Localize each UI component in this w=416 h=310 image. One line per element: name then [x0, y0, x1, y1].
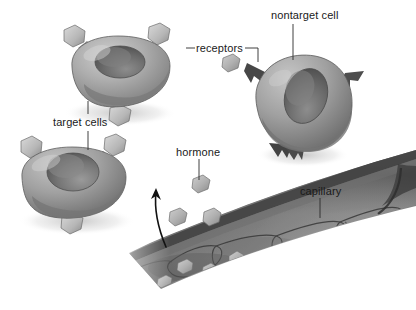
hormone-particles-free [169, 54, 240, 226]
label-capillary: capillary [300, 185, 341, 197]
label-target-cells: target cells [53, 116, 107, 128]
label-nontarget-cell: nontarget cell [271, 9, 338, 21]
capillary-vessel [110, 148, 416, 298]
label-receptors: receptors [196, 42, 243, 54]
leader-receptors-right [245, 48, 258, 62]
label-hormone: hormone [176, 146, 220, 158]
nontarget-cell [244, 55, 364, 160]
diagram-canvas: nontarget cell receptors target cells ho… [0, 0, 416, 310]
